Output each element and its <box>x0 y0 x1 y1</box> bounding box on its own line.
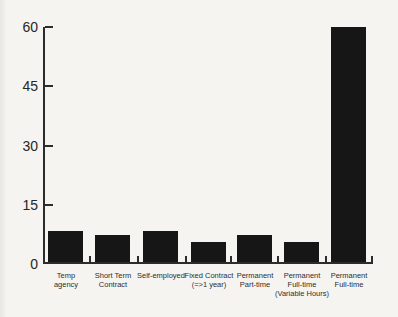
x-tick-2 <box>137 256 139 262</box>
bar-temp-agency <box>48 231 83 262</box>
y-tick-15 <box>45 204 53 206</box>
x-tick-3 <box>185 256 187 262</box>
y-axis-label-30: 30 <box>2 139 38 154</box>
y-axis-label-45: 45 <box>2 79 38 94</box>
bar-permanent-full-time <box>331 27 366 262</box>
y-tick-60 <box>45 26 53 28</box>
y-tick-45 <box>45 85 53 87</box>
x-tick-1 <box>89 256 91 262</box>
x-tick-6 <box>325 256 327 262</box>
bar-short-term-contract <box>95 235 130 262</box>
bar-permanent-full-time-variable <box>284 242 319 262</box>
y-tick-30 <box>45 145 53 147</box>
bar-chart: 60 45 30 15 0 Temp agency Short Term Con… <box>0 0 398 317</box>
x-tick-4 <box>230 256 232 262</box>
bar-self-employed <box>143 231 178 262</box>
bar-fixed-contract <box>191 242 226 262</box>
x-tick-5 <box>277 256 279 262</box>
plot-area <box>43 27 373 264</box>
y-axis-label-15: 15 <box>2 198 38 213</box>
y-axis-label-0: 0 <box>2 257 38 272</box>
y-axis-label-60: 60 <box>2 20 38 35</box>
x-tick-7 <box>371 256 373 262</box>
x-axis-label-permanent-full-time: Permanent Full-time <box>318 271 380 289</box>
bar-permanent-part-time <box>237 235 272 262</box>
